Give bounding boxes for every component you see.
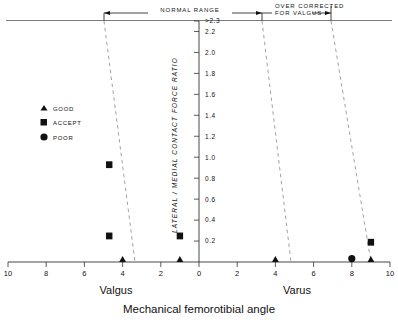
y-tick-label: 0.2 — [205, 237, 216, 244]
legend: GOOD ACCEPT POOR — [40, 105, 81, 141]
data-marker-group — [106, 161, 374, 262]
y-axis-title: LATERAL / MEDIAL CONTACT FORCE RATIO — [171, 57, 178, 233]
data-point-accept — [368, 239, 374, 246]
y-tick-label: >2.3 — [205, 17, 220, 24]
legend-label-poor: POOR — [53, 135, 73, 141]
x-tick-group: 1086420246810 — [4, 262, 394, 278]
bracket-label-over-corrected-line2: FOR VALGUS — [275, 10, 322, 16]
data-point-accept — [177, 233, 183, 240]
x-tick-label: 10 — [4, 269, 12, 278]
x-tick-label: 4 — [121, 269, 125, 278]
x-axis-group: 1086420246810 — [4, 262, 394, 278]
data-point-accept — [106, 233, 112, 240]
bracket-label-normal-range: NORMAL RANGE — [160, 7, 219, 13]
data-point-good — [368, 256, 375, 262]
y-tick-label: 1.2 — [205, 133, 216, 140]
y-tick-label: 0.6 — [205, 196, 216, 203]
y-tick-group: >2.32.22.01.81.61.41.21.00.80.60.40.2 — [194, 17, 220, 244]
data-point-good — [177, 256, 184, 262]
reference-lines-group — [104, 21, 371, 262]
x-tick-label: 4 — [273, 269, 277, 278]
legend-marker-circle-poor — [40, 133, 47, 140]
x-tick-label: 0 — [197, 269, 201, 278]
data-point-good — [272, 256, 279, 262]
data-point-accept — [106, 161, 112, 168]
y-axis-group: >2.32.22.01.81.61.41.21.00.80.60.40.2 LA… — [171, 17, 220, 262]
x-tick-label: 2 — [235, 269, 239, 278]
y-tick-label: 1.0 — [205, 154, 216, 161]
x-tick-label: 2 — [159, 269, 163, 278]
legend-marker-triangle-good — [41, 105, 48, 111]
y-tick-label: 1.6 — [205, 91, 216, 98]
reference-line-valgus — [104, 21, 135, 262]
y-tick-label: 1.4 — [205, 112, 216, 119]
bracket-group: NORMAL RANGE OVER CORRECTED FOR VALGUS — [6, 3, 392, 21]
x-tick-label: 10 — [386, 269, 394, 278]
x-axis-side-label-valgus: Valgus — [100, 284, 133, 296]
y-tick-label: 2.0 — [205, 49, 216, 56]
x-tick-label: 8 — [44, 269, 48, 278]
x-axis-side-label-varus: Varus — [283, 284, 311, 296]
bracket-over-corrected: OVER CORRECTED FOR VALGUS — [262, 3, 344, 21]
bracket-label-over-corrected-line1: OVER CORRECTED — [275, 3, 344, 9]
reference-line-overcorrected — [331, 21, 371, 262]
x-tick-label: 6 — [312, 269, 316, 278]
legend-label-accept: ACCEPT — [53, 120, 82, 126]
legend-marker-square-accept — [41, 119, 48, 126]
data-point-poor — [348, 255, 355, 262]
x-axis-title: Mechanical femorotibial angle — [123, 303, 275, 315]
reference-line-normal-upper — [262, 21, 291, 262]
bracket-normal-range: NORMAL RANGE — [104, 7, 262, 21]
legend-label-good: GOOD — [53, 106, 74, 112]
y-tick-label: 1.8 — [205, 70, 216, 77]
scatter-plot-svg: NORMAL RANGE OVER CORRECTED FOR VALGUS >… — [0, 0, 398, 322]
x-tick-label: 8 — [350, 269, 354, 278]
y-tick-label: 0.4 — [205, 216, 216, 223]
data-point-good — [119, 256, 126, 262]
y-tick-label: 0.8 — [205, 175, 216, 182]
chart-container: NORMAL RANGE OVER CORRECTED FOR VALGUS >… — [0, 0, 398, 322]
x-tick-label: 6 — [82, 269, 86, 278]
y-tick-label: 2.2 — [205, 28, 216, 35]
